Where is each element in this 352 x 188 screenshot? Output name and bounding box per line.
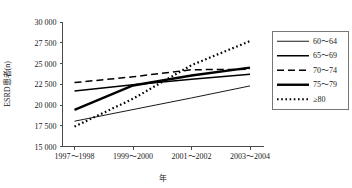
y-axis-group: 15 00017 50020 00022 50025 00027 50030 0… — [2, 18, 63, 152]
legend-label: 70～74 — [313, 66, 337, 75]
series-line--80 — [75, 41, 251, 126]
esrd-patients-line-chart: 15 00017 50020 00022 50025 00027 50030 0… — [0, 0, 352, 188]
y-tick-label: 15 000 — [35, 143, 57, 152]
y-tick-label: 17 500 — [35, 122, 57, 131]
x-tick-label: 2003～2004 — [230, 152, 270, 161]
series-line-60-64 — [75, 86, 251, 121]
x-tick-label: 1997～1998 — [55, 152, 95, 161]
y-tick-label: 22 500 — [35, 80, 57, 89]
legend-label: 60～64 — [313, 37, 337, 46]
chart-canvas: 15 00017 50020 00022 50025 00027 50030 0… — [0, 0, 352, 188]
x-tick-group: 1997～19981999～20002001～20022003～2004 — [55, 147, 271, 161]
y-axis-title: ESRD患者(n) — [2, 61, 12, 107]
x-tick-label: 1999～2000 — [113, 152, 153, 161]
legend-label: 75～79 — [313, 80, 337, 89]
chart-legend: 60～6465～6970～7475～79≥80 — [272, 31, 348, 110]
y-tick-label: 30 000 — [35, 18, 57, 27]
legend-label: 65～69 — [313, 51, 337, 60]
y-tick-group: 15 00017 50020 00022 50025 00027 50030 0… — [35, 18, 63, 152]
series-group — [75, 41, 251, 126]
x-axis-group: 1997～19981999～20002001～20022003～2004 年 — [55, 147, 271, 184]
y-tick-label: 25 000 — [35, 60, 57, 69]
y-tick-label: 27 500 — [35, 39, 57, 48]
legend-label: ≥80 — [313, 95, 325, 104]
x-axis-title: 年 — [159, 173, 167, 183]
x-tick-label: 2001～2002 — [172, 152, 212, 161]
y-tick-label: 20 000 — [35, 101, 57, 110]
